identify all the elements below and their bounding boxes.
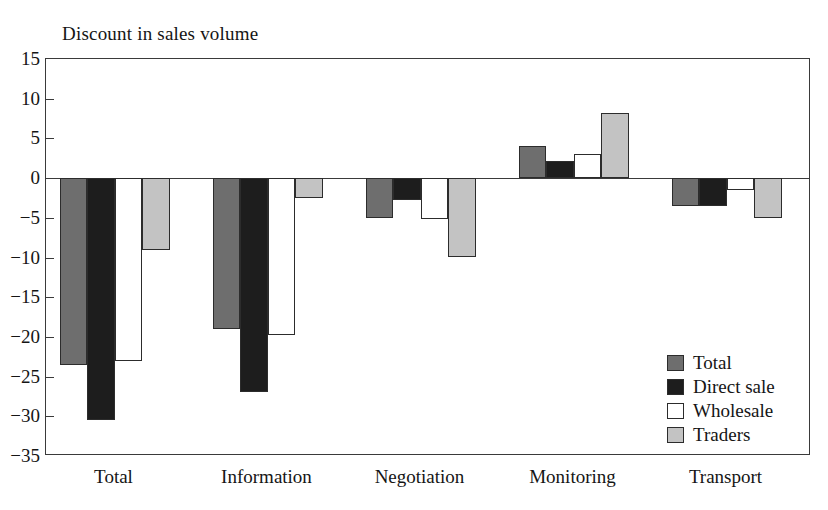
bar-information-total xyxy=(213,178,241,329)
y-tick-label: −10 xyxy=(0,247,40,266)
bar-total-wholesale xyxy=(115,178,143,361)
y-tick-label: 15 xyxy=(0,49,40,68)
bar-monitoring-wholesale xyxy=(574,154,602,178)
legend-item-traders: Traders xyxy=(667,424,775,445)
y-tick-mark xyxy=(46,138,54,139)
legend-swatch-icon xyxy=(667,379,684,395)
bar-negotiation-total xyxy=(366,178,394,218)
x-category-label-monitoring: Monitoring xyxy=(529,466,616,487)
legend-swatch-icon xyxy=(667,427,684,443)
bar-total-direct-sale xyxy=(87,178,115,420)
y-tick-mark xyxy=(46,258,54,259)
y-tick-mark xyxy=(46,297,54,298)
legend-item-label: Wholesale xyxy=(693,401,773,421)
legend-item-label: Direct sale xyxy=(693,377,775,397)
y-tick-mark xyxy=(46,218,54,219)
y-tick-label: 0 xyxy=(0,168,40,187)
x-category-label-negotiation: Negotiation xyxy=(375,466,465,487)
bar-information-direct-sale xyxy=(240,178,268,392)
legend-swatch-icon xyxy=(667,355,684,371)
y-tick-label: 5 xyxy=(0,128,40,147)
y-tick-label: −35 xyxy=(0,446,40,465)
bar-transport-direct-sale xyxy=(699,178,727,206)
y-tick-label: −5 xyxy=(0,207,40,226)
chart-root: Discount in sales volume 151050−5−10−15−… xyxy=(0,0,828,510)
chart-legend: TotalDirect saleWholesaleTraders xyxy=(667,352,775,445)
y-axis-labels: 151050−5−10−15−20−25−30−35 xyxy=(0,58,40,455)
y-tick-mark xyxy=(46,337,54,338)
legend-item-label: Traders xyxy=(693,425,750,445)
legend-swatch-icon xyxy=(667,403,684,419)
bar-negotiation-traders xyxy=(448,178,476,257)
legend-item-direct-sale: Direct sale xyxy=(667,376,775,397)
y-tick-label: −30 xyxy=(0,406,40,425)
bar-total-total xyxy=(60,178,88,365)
x-category-label-transport: Transport xyxy=(689,466,762,487)
bar-monitoring-traders xyxy=(601,113,629,178)
bar-transport-wholesale xyxy=(727,178,755,190)
y-tick-mark xyxy=(46,416,54,417)
y-tick-mark xyxy=(46,377,54,378)
legend-item-label: Total xyxy=(693,353,732,373)
bar-negotiation-direct-sale xyxy=(393,178,421,200)
bar-transport-total xyxy=(672,178,700,206)
bar-transport-traders xyxy=(754,178,782,218)
y-tick-label: −20 xyxy=(0,326,40,345)
x-category-label-total: Total xyxy=(94,466,133,487)
bar-monitoring-direct-sale xyxy=(546,161,574,178)
y-tick-label: −15 xyxy=(0,287,40,306)
y-tick-mark xyxy=(46,99,54,100)
bar-information-wholesale xyxy=(268,178,296,334)
bar-total-traders xyxy=(142,178,170,249)
y-tick-label: −25 xyxy=(0,366,40,385)
bar-negotiation-wholesale xyxy=(421,178,449,219)
chart-title: Discount in sales volume xyxy=(62,23,258,45)
x-category-label-information: Information xyxy=(221,466,312,487)
bar-monitoring-total xyxy=(519,146,547,178)
legend-item-total: Total xyxy=(667,352,775,373)
legend-item-wholesale: Wholesale xyxy=(667,400,775,421)
bar-information-traders xyxy=(295,178,323,198)
y-tick-label: 10 xyxy=(0,88,40,107)
